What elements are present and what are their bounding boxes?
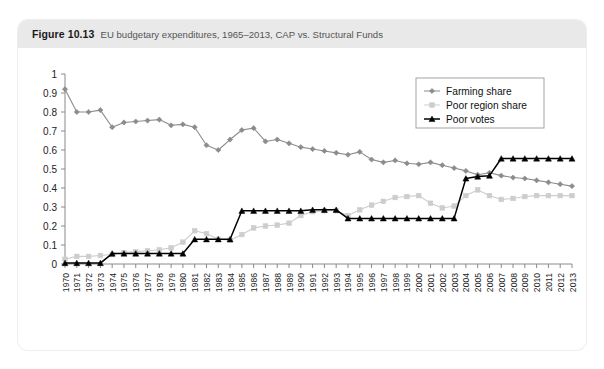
- x-axis-tick-label: 1992: [320, 273, 330, 292]
- y-axis-tick-label: 0.7: [43, 126, 57, 137]
- x-axis-tick-label: 1996: [367, 273, 377, 292]
- x-axis-tick-label: 2010: [532, 273, 542, 292]
- x-axis-tick-label: 1986: [249, 273, 259, 292]
- figure-number: Figure 10.13: [32, 28, 94, 40]
- legend-label: Poor votes: [446, 114, 495, 125]
- y-axis-tick-label: 0.8: [43, 107, 57, 118]
- x-axis-tick-label: 2002: [438, 273, 448, 292]
- x-axis-tick-label: 1990: [296, 273, 306, 292]
- x-axis-tick-label: 2007: [497, 273, 507, 292]
- x-axis-tick-label: 2008: [509, 273, 519, 292]
- chart-legend: Farming sharePoor region sharePoor votes: [416, 78, 544, 128]
- x-axis-tick-label: 1977: [143, 273, 153, 292]
- y-axis-tick-label: 0: [51, 259, 57, 270]
- x-axis-tick-label: 1980: [178, 273, 188, 292]
- series-poor-region-share: [63, 188, 575, 262]
- x-axis-tick-label: 1997: [379, 273, 389, 292]
- x-axis-tick-label: 2013: [568, 273, 578, 292]
- x-axis-tick-label: 1970: [61, 273, 71, 292]
- x-axis-tick-label: 1988: [273, 273, 283, 292]
- x-axis-tick-label: 2011: [544, 273, 554, 292]
- series-poor-votes: [62, 156, 575, 266]
- x-axis-tick-label: 1991: [308, 273, 318, 292]
- x-axis-tick-label: 1993: [332, 273, 342, 292]
- x-axis-tick-label: 1989: [285, 273, 295, 292]
- x-axis-tick-label: 2001: [426, 273, 436, 292]
- x-axis-tick-label: 1971: [72, 273, 82, 292]
- x-axis-tick-label: 1984: [226, 273, 236, 292]
- x-axis-tick-label: 1987: [261, 273, 271, 292]
- x-axis-tick-label: 1973: [96, 273, 106, 292]
- x-axis-tick-label: 2003: [450, 273, 460, 292]
- x-axis-tick-label: 1985: [237, 273, 247, 292]
- line-chart: 00.10.20.30.40.50.60.70.80.9119701971197…: [18, 48, 586, 350]
- y-axis-tick-label: 0.3: [43, 202, 57, 213]
- y-axis-tick-label: 0.1: [43, 240, 57, 251]
- x-axis-tick-label: 2000: [414, 273, 424, 292]
- figure-caption: EU budgetary expenditures, 1965–2013, CA…: [100, 29, 382, 40]
- x-axis-tick-label: 1983: [214, 273, 224, 292]
- x-axis-tick-label: 1979: [167, 273, 177, 292]
- x-axis-tick-label: 1998: [391, 273, 401, 292]
- y-axis-tick-label: 0.5: [43, 164, 57, 175]
- x-axis-tick-label: 1974: [108, 273, 118, 292]
- x-axis-tick-label: 2004: [461, 273, 471, 292]
- x-axis-tick-label: 1972: [84, 273, 94, 292]
- x-axis-tick-label: 1976: [131, 273, 141, 292]
- x-axis-tick-label: 1981: [190, 273, 200, 292]
- screenshot-root: Figure 10.13 EU budgetary expenditures, …: [0, 0, 604, 369]
- x-axis-tick-label: 1995: [355, 273, 365, 292]
- y-axis-tick-label: 0.4: [43, 183, 57, 194]
- x-axis-tick-label: 2005: [473, 273, 483, 292]
- x-axis-tick-label: 1994: [343, 273, 353, 292]
- x-axis-tick-label: 1978: [155, 273, 165, 292]
- plot-area-card: 00.10.20.30.40.50.60.70.80.9119701971197…: [18, 48, 586, 350]
- legend-label: Poor region share: [446, 100, 527, 111]
- figure-header-bar: Figure 10.13 EU budgetary expenditures, …: [18, 20, 586, 48]
- x-axis-tick-label: 1999: [402, 273, 412, 292]
- x-axis-tick-label: 1982: [202, 273, 212, 292]
- x-axis-tick-label: 2012: [556, 273, 566, 292]
- y-axis-tick-label: 0.6: [43, 145, 57, 156]
- x-axis-tick-label: 2006: [485, 273, 495, 292]
- y-axis-tick-label: 0.9: [43, 88, 57, 99]
- legend-label: Farming share: [446, 86, 512, 97]
- figure-card: Figure 10.13 EU budgetary expenditures, …: [18, 20, 586, 350]
- y-axis-tick-label: 1: [51, 69, 57, 80]
- y-axis-tick-label: 0.2: [43, 221, 57, 232]
- x-axis-tick-label: 2009: [520, 273, 530, 292]
- x-axis-tick-label: 1975: [119, 273, 129, 292]
